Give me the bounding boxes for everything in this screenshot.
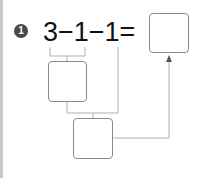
answer-box[interactable] — [149, 13, 189, 53]
step2-box[interactable] — [73, 118, 113, 159]
step1-box[interactable] — [48, 61, 87, 102]
arrow-up-icon — [166, 55, 172, 62]
